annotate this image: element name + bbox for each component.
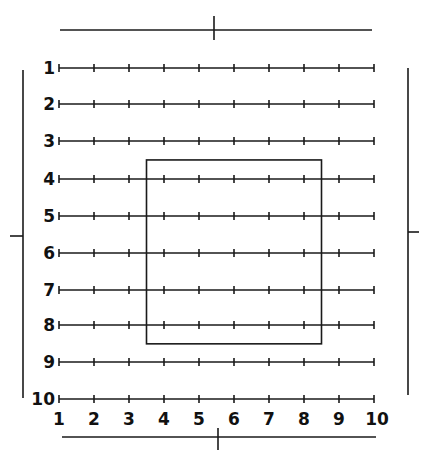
row-label: 10: [31, 389, 55, 409]
grid-row: 5: [43, 206, 374, 226]
row-label: 5: [43, 206, 55, 226]
row-label: 3: [43, 131, 55, 151]
column-label: 6: [228, 409, 240, 429]
grid-row: 9: [43, 352, 374, 372]
grid-row: 3: [43, 131, 374, 151]
left-border-line: [10, 70, 23, 398]
grid-rows: 12345678910: [31, 58, 374, 409]
grid-row: 1: [43, 58, 374, 78]
grid-diagram: 12345678910 12345678910: [0, 0, 426, 454]
grid-row: 7: [43, 280, 374, 300]
row-label: 6: [43, 243, 55, 263]
column-label: 4: [158, 409, 170, 429]
row-label: 4: [43, 169, 55, 189]
grid-row: 10: [31, 389, 374, 409]
column-label: 5: [193, 409, 205, 429]
column-label: 3: [123, 409, 135, 429]
row-label: 1: [43, 58, 55, 78]
grid-row: 8: [43, 315, 374, 335]
row-label: 9: [43, 352, 55, 372]
column-label: 10: [365, 409, 389, 429]
right-border-line: [408, 68, 419, 395]
column-label: 9: [333, 409, 345, 429]
row-label: 2: [43, 94, 55, 114]
grid-row: 4: [43, 169, 374, 189]
grid-row: 6: [43, 243, 374, 263]
column-label: 8: [298, 409, 310, 429]
bottom-border-line: [62, 428, 376, 450]
column-label: 7: [263, 409, 275, 429]
row-label: 7: [43, 280, 55, 300]
top-border-line: [60, 16, 372, 40]
column-label: 1: [53, 409, 65, 429]
column-labels: 12345678910: [53, 409, 389, 429]
row-label: 8: [43, 315, 55, 335]
grid-row: 2: [43, 94, 374, 114]
column-label: 2: [88, 409, 100, 429]
